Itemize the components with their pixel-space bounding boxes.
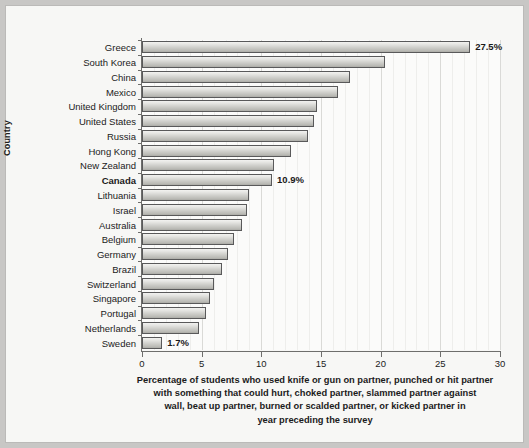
- bar-row: [142, 248, 500, 262]
- bar-value-label: 10.9%: [277, 173, 304, 187]
- y-axis-tick-mark: [138, 40, 142, 41]
- y-axis-tick-label: Netherlands: [10, 322, 136, 336]
- y-axis-tick-mark: [138, 129, 142, 130]
- y-axis-tick-mark: [138, 335, 142, 336]
- plot-area: 27.5%10.9%1.7%: [142, 40, 500, 350]
- y-axis-tick-label: Australia: [10, 219, 136, 233]
- bar-row: [142, 100, 500, 114]
- bar: [142, 71, 350, 83]
- chart-figure: 27.5%10.9%1.7% GreeceSouth KoreaChinaMex…: [6, 6, 523, 442]
- y-axis-tick-label: United States: [10, 115, 136, 129]
- bar: [142, 86, 338, 98]
- x-axis-tick-mark: [440, 352, 441, 357]
- bar: [142, 145, 291, 157]
- y-axis-tick-label: United Kingdom: [10, 100, 136, 114]
- x-axis-tick-label: 25: [425, 358, 455, 370]
- x-axis-caption-line: year preceding the survey: [124, 414, 506, 427]
- bar: [142, 248, 228, 260]
- y-axis-tick-mark: [138, 261, 142, 262]
- x-axis-tick-mark: [381, 352, 382, 357]
- y-axis-tick-mark: [138, 143, 142, 144]
- bar-value-label: 27.5%: [475, 40, 502, 54]
- bar: [142, 41, 470, 53]
- x-axis-tick-mark: [142, 352, 143, 357]
- bar: [142, 292, 210, 304]
- bar: [142, 56, 385, 68]
- y-axis-tick-label: South Korea: [10, 56, 136, 70]
- x-axis-caption-line: wall, beat up partner, burned or scalded…: [124, 400, 506, 413]
- bar-row: [142, 159, 500, 173]
- bar-row: 27.5%: [142, 41, 500, 55]
- bar-row: [142, 263, 500, 277]
- x-axis-tick-label: 10: [246, 358, 276, 370]
- y-axis-tick-label: Sweden: [10, 337, 136, 351]
- bar-row: [142, 292, 500, 306]
- bar-row: [142, 233, 500, 247]
- y-axis-tick-label: Portugal: [10, 307, 136, 321]
- y-axis-tick-mark: [138, 114, 142, 115]
- bar-row: [142, 86, 500, 100]
- y-axis-tick-label: Switzerland: [10, 278, 136, 292]
- gridline: [500, 40, 501, 350]
- y-axis-tick-label: Israel: [10, 204, 136, 218]
- y-axis-tick-label: Canada: [10, 174, 136, 188]
- y-axis-tick-mark: [138, 188, 142, 189]
- y-axis-tick-label: Brazil: [10, 263, 136, 277]
- y-axis-tick-mark: [138, 70, 142, 71]
- y-axis-line: [141, 38, 142, 352]
- x-axis-tick-label: 30: [485, 358, 515, 370]
- bar: [142, 233, 234, 245]
- x-axis-tick-mark: [261, 352, 262, 357]
- y-axis-tick-label: Singapore: [10, 292, 136, 306]
- y-axis-tick-mark: [138, 55, 142, 56]
- y-axis-tick-mark: [138, 202, 142, 203]
- y-axis-tick-label: Germany: [10, 248, 136, 262]
- y-axis-tick-label: Hong Kong: [10, 145, 136, 159]
- bar: [142, 263, 222, 275]
- y-axis-tick-label: China: [10, 71, 136, 85]
- x-axis-tick-mark: [321, 352, 322, 357]
- y-axis-tick-mark: [138, 99, 142, 100]
- y-axis-tick-label: Lithuania: [10, 189, 136, 203]
- bar-row: [142, 56, 500, 70]
- x-axis-tick-mark: [202, 352, 203, 357]
- y-axis-tick-mark: [138, 320, 142, 321]
- y-axis-tick-mark: [138, 247, 142, 248]
- bar-row: [142, 219, 500, 233]
- y-axis-tick-label: Mexico: [10, 86, 136, 100]
- bar-row: [142, 189, 500, 203]
- y-axis-tick-mark: [138, 276, 142, 277]
- bar: [142, 174, 272, 186]
- x-axis-tick-label: 5: [187, 358, 217, 370]
- x-axis-tick-label: 20: [366, 358, 396, 370]
- x-axis-caption-line: with something that could hurt, choked p…: [124, 387, 506, 400]
- bar: [142, 159, 274, 171]
- bar: [142, 278, 214, 290]
- y-axis-tick-mark: [138, 306, 142, 307]
- y-axis-tick-label: New Zealand: [10, 159, 136, 173]
- y-axis-tick-label: Russia: [10, 130, 136, 144]
- bar-row: [142, 130, 500, 144]
- y-axis-tick-mark: [138, 232, 142, 233]
- bar: [142, 322, 199, 334]
- bar-row: [142, 204, 500, 218]
- bar: [142, 204, 247, 216]
- bar: [142, 115, 314, 127]
- bar-value-label: 1.7%: [167, 336, 189, 350]
- bar: [142, 189, 249, 201]
- y-axis-title: Country: [2, 120, 12, 156]
- bar: [142, 337, 162, 349]
- bar-row: [142, 322, 500, 336]
- y-axis-tick-mark: [138, 217, 142, 218]
- bar: [142, 100, 317, 112]
- x-axis-caption-line: Percentage of students who used knife or…: [124, 374, 506, 387]
- bar-row: 10.9%: [142, 174, 500, 188]
- y-axis-tick-label: Belgium: [10, 233, 136, 247]
- bar-row: [142, 145, 500, 159]
- y-axis-tick-mark: [138, 158, 142, 159]
- bar-row: [142, 278, 500, 292]
- bar: [142, 219, 242, 231]
- y-axis-tick-mark: [138, 173, 142, 174]
- bar-row: [142, 71, 500, 85]
- x-axis-caption: Percentage of students who used knife or…: [124, 374, 506, 427]
